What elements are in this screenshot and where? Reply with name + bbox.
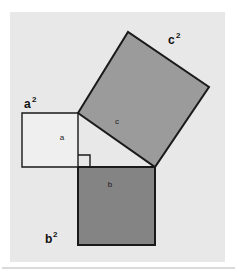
- label-a-squared-base: a: [24, 97, 31, 111]
- label-c-squared-base: c: [168, 33, 175, 47]
- label-side-b: b: [108, 180, 113, 189]
- label-b-squared-exponent: 2: [53, 230, 58, 239]
- label-c-squared-exponent: 2: [176, 31, 181, 40]
- pythagorean-diagram: a 2 b 2 c 2 a b c: [0, 0, 237, 275]
- label-a-squared-exponent: 2: [32, 95, 37, 104]
- square-b-shape: [78, 167, 155, 245]
- label-b-squared-base: b: [45, 232, 52, 246]
- label-side-a: a: [60, 133, 65, 142]
- figure-root: a 2 b 2 c 2 a b c: [0, 0, 237, 275]
- square-a-shape: [22, 113, 78, 167]
- label-side-c: c: [115, 117, 119, 126]
